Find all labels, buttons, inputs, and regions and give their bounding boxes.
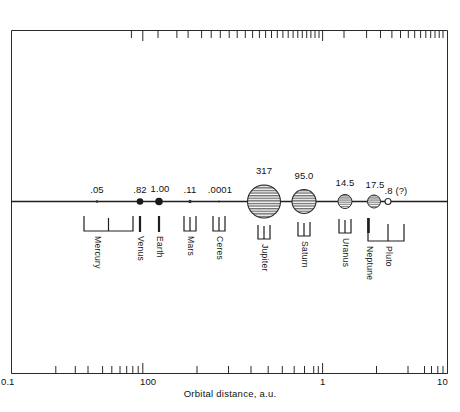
planet-name-jupiter: Jupiter <box>260 244 269 272</box>
planet-marker-venus <box>137 198 144 205</box>
planet-name-saturn: Saturn <box>300 241 309 268</box>
planet-marker-pluto <box>385 199 391 205</box>
bracket-jupiter <box>258 225 270 239</box>
mass-label-saturn: 95.0 <box>295 171 314 180</box>
bracket-mercury <box>84 216 133 231</box>
bracket-uranus <box>339 219 351 233</box>
mass-label-mercury: .05 <box>90 185 104 194</box>
bracket-neptune-pluto <box>368 218 404 241</box>
planet-name-earth: Earth <box>155 236 164 258</box>
mass-label-uranus: 14.5 <box>336 178 355 187</box>
axis-title: Orbital distance, a.u. <box>184 389 277 398</box>
mass-label-earth: 1.00 <box>151 184 170 193</box>
planet-name-pluto: Pluto <box>384 246 393 267</box>
bracket-saturn <box>298 222 310 236</box>
planet-marker-earth <box>155 198 163 206</box>
mass-label-mars: .11 <box>184 185 197 194</box>
figure-canvas <box>0 0 460 412</box>
planet-marker-saturn <box>292 190 316 214</box>
planet-name-mercury: Mercury <box>93 236 102 269</box>
axis-tick-label-3: 100 <box>140 377 156 386</box>
mass-label-neptune: 17.5 <box>366 180 385 189</box>
figure-panel: .05 .82 1.00 .11 .0001 317 95.0 14.5 17.… <box>0 0 460 412</box>
planet-brackets <box>84 216 404 241</box>
mass-label-venus: .82 <box>133 185 147 194</box>
planet-marker-mars <box>188 200 191 203</box>
bracket-mars <box>184 216 196 231</box>
mass-label-pluto: .8 (?) <box>385 186 408 195</box>
planet-name-ceres: Ceres <box>215 236 224 260</box>
planet-name-venus: Venus <box>136 236 145 261</box>
bottom-axis-ticks <box>12 363 448 374</box>
axis-tick-label-0: 0.1 <box>1 377 15 386</box>
planet-name-mars: Mars <box>186 236 195 256</box>
planet-name-uranus: Uranus <box>341 238 350 267</box>
axis-tick-label-2: 10 <box>437 377 448 386</box>
planet-marker-ceres <box>218 201 220 203</box>
planet-marker-uranus <box>338 195 352 209</box>
mass-label-ceres: .0001 <box>208 185 232 194</box>
top-axis-ticks <box>131 31 443 42</box>
planet-name-neptune: Neptune <box>365 246 374 280</box>
mass-label-jupiter: 317 <box>256 166 272 175</box>
planet-marker-neptune <box>368 195 381 208</box>
planet-marker-jupiter <box>248 185 281 218</box>
planet-marker-mercury <box>96 200 99 203</box>
axis-tick-label-1: 1 <box>320 377 325 386</box>
bracket-ceres <box>213 216 225 231</box>
